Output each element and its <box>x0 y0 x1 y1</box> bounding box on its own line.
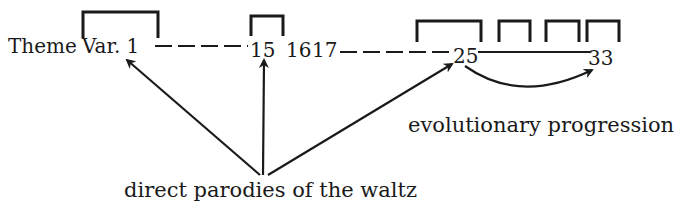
label-var1: Var. 1 <box>82 36 139 56</box>
bracket-a <box>499 21 530 42</box>
bracket-var25 <box>417 21 481 42</box>
label-var17: 17 <box>312 40 337 60</box>
arrow-to-var15 <box>263 60 264 175</box>
caption-direct-parodies: direct parodies of the waltz <box>124 180 417 201</box>
caption-evolutionary-progression: evolutionary progression <box>408 115 674 136</box>
label-var33: 33 <box>588 48 613 68</box>
brackets <box>83 12 619 42</box>
bracket-var15 <box>251 16 283 36</box>
parody-arrows <box>127 60 452 175</box>
label-var15: 15 <box>250 40 275 60</box>
bracket-c <box>587 21 619 42</box>
evolution-arrow <box>465 66 592 87</box>
dashed-connectors <box>155 46 590 52</box>
label-var25: 25 <box>453 46 478 66</box>
bracket-b <box>546 21 579 42</box>
label-theme: Theme <box>8 36 77 56</box>
label-var16: 16 <box>286 40 311 60</box>
arrow-to-var1 <box>127 60 260 175</box>
